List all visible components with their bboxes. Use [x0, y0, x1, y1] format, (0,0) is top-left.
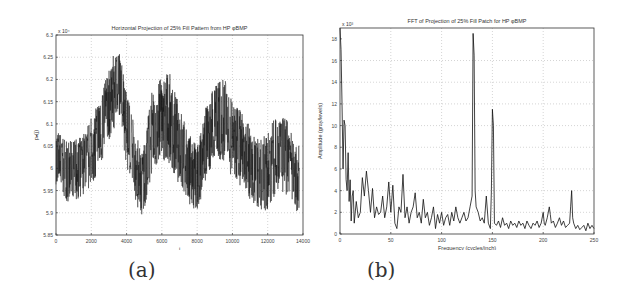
chart-b-y-multiplier: x 10³: [342, 21, 353, 27]
chart-a-xtick-label: 6000: [156, 238, 167, 244]
chart-b-title: FFT of Projection of 25% Fill Patch for …: [408, 18, 527, 24]
chart-a-ytick-label: 5.85: [43, 232, 53, 238]
chart-b-xtick-label: 100: [437, 237, 446, 243]
chart-a-xtick-label: 8000: [192, 238, 203, 244]
chart-b-ytick-label: 2: [334, 209, 337, 215]
chart-b-ytick-label: 10: [331, 123, 337, 129]
chart-a-ylabel: pₙ(j): [33, 130, 39, 140]
chart-b-xlabel: Frequency (cycles/inch): [438, 245, 496, 250]
chart-a-xtick-label: 4000: [121, 238, 132, 244]
chart-b-ytick-label: 0: [334, 231, 337, 237]
chart-b-ytick-label: 16: [331, 58, 337, 64]
chart-b-xtick-label: 200: [539, 237, 548, 243]
chart-b-ytick-label: 4: [334, 188, 337, 194]
chart-b-ytick-label: 14: [331, 79, 337, 85]
chart-b: 050100150200250024681012141618FFT of Pro…: [314, 0, 628, 250]
chart-a-xtick-label: 12000: [261, 238, 275, 244]
chart-a-ytick-label: 6.2: [46, 76, 53, 82]
chart-a-ytick-label: 6: [50, 165, 53, 171]
chart-a-xtick-label: 14000: [296, 238, 310, 244]
chart-a-ytick-label: 6.3: [46, 32, 53, 38]
chart-b-ylabel: Amplitude (gray/levels): [317, 103, 323, 159]
chart-a: 020004000600080001000012000140005.855.95…: [0, 0, 314, 250]
chart-a-plot: 020004000600080001000012000140005.855.95…: [0, 0, 314, 250]
chart-b-xtick-label: 50: [388, 237, 394, 243]
caption-a: (a): [128, 258, 156, 282]
chart-a-xtick-label: 10000: [225, 238, 239, 244]
chart-b-ytick-label: 6: [334, 166, 337, 172]
chart-a-ytick-label: 6.15: [43, 99, 53, 105]
chart-a-ytick-label: 6.05: [43, 143, 53, 149]
chart-b-xtick-label: 250: [590, 237, 599, 243]
chart-b-xtick-label: 150: [488, 237, 497, 243]
chart-b-ytick-label: 18: [331, 36, 337, 42]
chart-a-ytick-label: 6.1: [46, 121, 53, 127]
chart-b-xtick-label: 0: [339, 237, 342, 243]
chart-a-title: Horizontal Projection of 25% Fill Patter…: [112, 25, 248, 31]
caption-b: (b): [367, 258, 395, 282]
chart-b-plot: 050100150200250024681012141618FFT of Pro…: [314, 0, 628, 250]
chart-b-ytick-label: 12: [331, 101, 337, 107]
chart-a-xlabel: i: [179, 246, 180, 250]
chart-a-xtick-label: 0: [55, 238, 58, 244]
chart-a-xtick-label: 2000: [86, 238, 97, 244]
chart-a-ytick-label: 5.95: [43, 188, 53, 194]
chart-a-ytick-label: 5.9: [46, 210, 53, 216]
chart-a-ytick-label: 6.25: [43, 54, 53, 60]
chart-a-y-multiplier: x 10⁴: [58, 28, 70, 34]
chart-b-ytick-label: 8: [334, 144, 337, 150]
